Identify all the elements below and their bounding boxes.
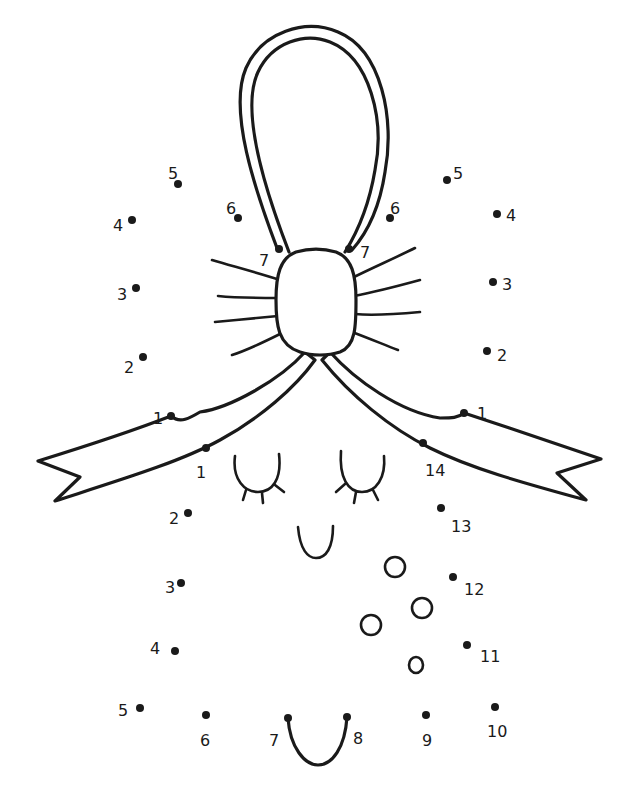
dot-number-label: 4 (506, 206, 516, 225)
dot-point (202, 444, 210, 452)
dot-point (419, 439, 427, 447)
dot-bottom-9: 9 (422, 711, 432, 750)
dot-bottom-13: 13 (437, 504, 471, 536)
dot-number-label: 5 (168, 164, 178, 183)
dot-point (184, 509, 192, 517)
right-eye-closed (336, 451, 384, 503)
dot-right_top-6: 6 (386, 199, 400, 222)
dot-number-label: 3 (502, 275, 512, 294)
dot-bottom-4: 4 (150, 639, 179, 658)
dot-point (275, 245, 283, 253)
dot-number-label: 3 (165, 578, 175, 597)
dot-right_top-2: 2 (483, 346, 507, 365)
dot-number-label: 13 (451, 517, 471, 536)
dot-number-label: 3 (117, 285, 127, 304)
dot-point (136, 704, 144, 712)
dot-number-label: 1 (477, 404, 487, 423)
dot-number-label: 1 (153, 409, 163, 428)
dot-number-label: 7 (259, 251, 269, 270)
dot-to-dot-canvas: 123456712345671234567891011121314 (0, 0, 640, 809)
dot-bottom-3: 3 (165, 578, 185, 597)
dot-point (493, 210, 501, 218)
dot-point (202, 711, 210, 719)
dot-point (443, 176, 451, 184)
dot-number-label: 10 (487, 722, 507, 741)
dot-number-label: 7 (269, 731, 279, 750)
dot-number-label: 6 (226, 199, 236, 218)
dot-point (132, 284, 140, 292)
dot-number-label: 6 (390, 199, 400, 218)
dot-point (345, 245, 353, 253)
dot-number-label: 2 (124, 358, 134, 377)
dot-number-label: 5 (118, 701, 128, 720)
bow-knot (276, 249, 356, 355)
dot-point (139, 353, 147, 361)
dot-number-label: 12 (464, 580, 484, 599)
dot-point (449, 573, 457, 581)
face (235, 451, 385, 558)
dot-bottom-6: 6 (200, 711, 210, 750)
hanging-loop (240, 27, 388, 252)
bottom-arc (288, 717, 347, 765)
dot-number-label: 11 (480, 647, 500, 666)
dot-left_top-3: 3 (117, 284, 140, 304)
dot-bottom-11: 11 (463, 641, 500, 666)
dot-point (284, 714, 292, 722)
dot-left_top-6: 6 (226, 199, 242, 222)
dot-point (171, 647, 179, 655)
dot-number-label: 2 (497, 346, 507, 365)
dot-number-label: 5 (453, 164, 463, 183)
dot-number-label: 1 (196, 463, 206, 482)
dot-number-label: 6 (200, 731, 210, 750)
dot-point (128, 216, 136, 224)
dot-point (489, 278, 497, 286)
smile (298, 526, 333, 558)
dot-point (343, 713, 351, 721)
dot-point (460, 409, 468, 417)
left-eye-closed (235, 454, 284, 503)
dot-left_top-4: 4 (113, 216, 136, 235)
dot-bottom-10: 10 (487, 703, 507, 741)
dot-right_top-7: 7 (345, 243, 370, 262)
dot-number-label: 14 (425, 461, 445, 480)
dot-bottom-2: 2 (169, 509, 192, 528)
dot-number-label: 4 (150, 639, 160, 658)
dot-right_top-5: 5 (443, 164, 463, 184)
dot-left_top-2: 2 (124, 353, 147, 377)
dot-number-label: 4 (113, 216, 123, 235)
dot-bottom-5: 5 (118, 701, 144, 720)
ribbon-right (322, 352, 601, 500)
dot-number-label: 7 (360, 243, 370, 262)
dot-right_top-3: 3 (489, 275, 512, 294)
dot-bottom-12: 12 (449, 573, 484, 599)
dot-right_top-4: 4 (493, 206, 516, 225)
dot-number-label: 8 (353, 729, 363, 748)
dot-point (491, 703, 499, 711)
puzzle-drawing: 123456712345671234567891011121314 (0, 0, 640, 809)
decor-circles (361, 557, 432, 673)
dot-point (463, 641, 471, 649)
ribbon-left (38, 352, 315, 501)
dot-left_top-5: 5 (168, 164, 182, 188)
dot-point (422, 711, 430, 719)
dot-number-label: 2 (169, 509, 179, 528)
dot-point (167, 412, 175, 420)
dot-point (483, 347, 491, 355)
dot-point (437, 504, 445, 512)
dot-point (177, 579, 185, 587)
dot-number-label: 9 (422, 731, 432, 750)
